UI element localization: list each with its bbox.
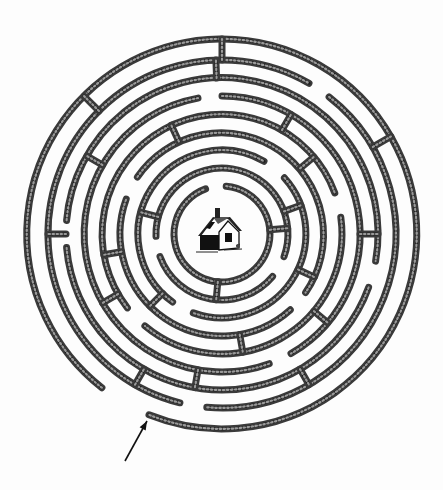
entrance-arrow-icon xyxy=(125,421,147,461)
maze-drawing xyxy=(0,0,443,490)
hedge-connector xyxy=(84,96,99,111)
cottage-icon xyxy=(196,208,242,252)
maze-illustration xyxy=(0,0,443,490)
